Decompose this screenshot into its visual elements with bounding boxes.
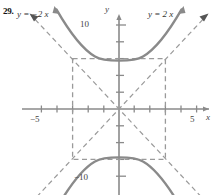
upper-branch-arrow-right: [178, 6, 186, 14]
asymptote-label-negative: y = −2 x: [17, 9, 48, 19]
problem-number: 29.: [3, 6, 14, 16]
asymptote-label-positive: y = 2 x: [148, 9, 173, 19]
y-tick-label-10: 10: [80, 19, 89, 29]
asymptote-positive-arrow-top: [200, 14, 209, 22]
y-axis-label: y: [105, 4, 109, 14]
x-tick-label-neg5: −5: [30, 114, 40, 124]
x-axis-label: x: [206, 112, 210, 122]
y-tick-label-neg10: −10: [74, 172, 88, 182]
upper-branch-arrow-left: [53, 6, 61, 14]
y-axis-ticks: [116, 25, 126, 176]
hyperbola-figure: 29.: [0, 0, 216, 195]
y-axis-arrow: [116, 14, 121, 20]
coordinate-plot: [0, 0, 216, 195]
x-axis-arrow: [203, 106, 209, 111]
x-tick-label-5: 5: [190, 114, 195, 124]
